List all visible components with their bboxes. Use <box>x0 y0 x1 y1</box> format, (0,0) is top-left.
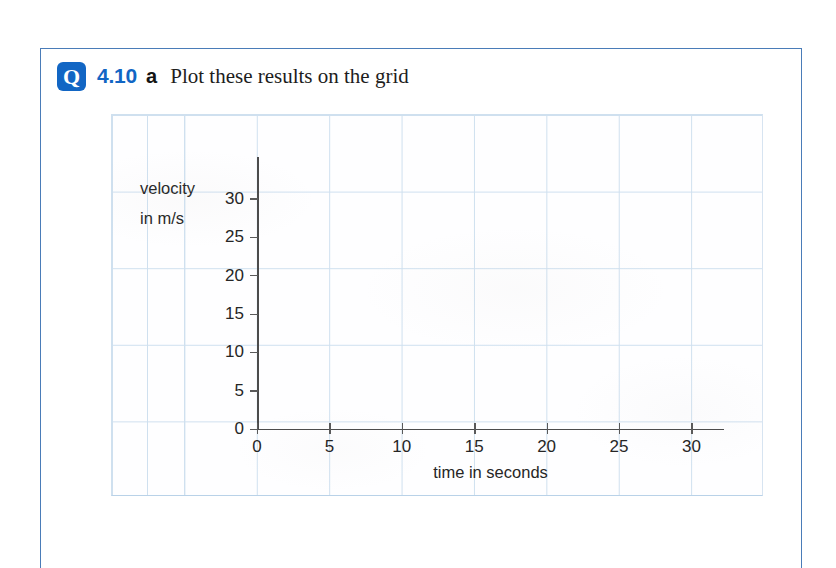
y-axis-tick <box>250 390 258 391</box>
y-axis-title-line-2: in m/s <box>140 203 195 233</box>
y-axis-tick <box>250 198 258 199</box>
x-axis-tick <box>547 423 548 434</box>
y-axis-tick-label: 0 <box>204 419 244 439</box>
x-axis-tick-label: 15 <box>452 437 496 457</box>
y-axis-tick <box>250 237 258 238</box>
y-axis-tick-label: 15 <box>204 304 244 324</box>
x-axis-tick-label: 25 <box>597 437 641 457</box>
x-axis-tick-label: 10 <box>380 437 424 457</box>
question-instruction-text: Plot these results on the grid <box>170 64 409 89</box>
question-part-label: a <box>146 65 157 88</box>
question-badge-icon: Q <box>57 62 86 91</box>
x-axis-tick <box>691 423 692 434</box>
x-axis-tick <box>257 423 258 434</box>
y-axis-title-line-1: velocity <box>140 173 195 203</box>
x-axis-tick <box>619 423 620 434</box>
y-axis-tick <box>250 314 258 315</box>
question-panel: Q 4.10 a Plot these results on the grid … <box>40 48 802 568</box>
graph-paper-grid[interactable]: 0 5 10 15 20 25 30 0 5 10 15 20 2 <box>111 114 763 496</box>
x-axis-tick-label: 0 <box>235 437 279 457</box>
y-axis-tick <box>250 352 258 353</box>
y-axis-tick-label: 20 <box>204 266 244 286</box>
y-axis-title: velocity in m/s <box>140 173 195 233</box>
question-header: Q 4.10 a Plot these results on the grid <box>57 59 409 93</box>
y-axis-tick-label: 30 <box>204 189 244 209</box>
x-axis-tick-label: 5 <box>307 437 351 457</box>
grid-gutter-line <box>184 115 185 495</box>
x-axis-line <box>257 429 724 431</box>
x-axis-title: time in seconds <box>257 463 724 482</box>
grid-gutter-line <box>147 115 148 495</box>
x-axis-tick <box>474 423 475 434</box>
y-axis-tick <box>250 275 258 276</box>
x-axis-tick <box>329 423 330 434</box>
y-axis-tick-label: 10 <box>204 342 244 362</box>
x-axis-tick-label: 20 <box>525 437 569 457</box>
x-axis-tick <box>402 423 403 434</box>
question-number: 4.10 <box>97 64 137 88</box>
y-axis-tick-label: 5 <box>204 381 244 401</box>
y-axis-tick-label: 25 <box>204 227 244 247</box>
x-axis-tick-label: 30 <box>669 437 713 457</box>
